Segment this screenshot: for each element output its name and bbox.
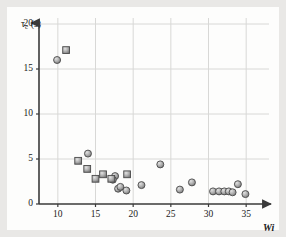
plot-canvas: τc (s) Wi 101520253035051015 bbox=[7, 7, 279, 230]
x-tick-label-35: 35 bbox=[237, 210, 255, 220]
data-point-circle-17 bbox=[242, 191, 249, 198]
data-point-square-4 bbox=[100, 171, 107, 178]
data-point-circle-0 bbox=[54, 57, 61, 64]
y-tick-label-15: 15 bbox=[15, 64, 33, 74]
data-point-circle-6 bbox=[123, 187, 130, 194]
data-point-circle-7 bbox=[138, 182, 145, 189]
y-tick-label-20: 20 bbox=[15, 19, 33, 29]
data-point-circle-8 bbox=[157, 161, 164, 168]
x-tick-label-15: 15 bbox=[87, 210, 105, 220]
data-point-square-5 bbox=[108, 175, 115, 182]
y-tick-label-5: 5 bbox=[15, 154, 33, 164]
x-tick-label-10: 10 bbox=[49, 210, 67, 220]
data-point-circle-15 bbox=[229, 189, 236, 196]
x-tick-label-20: 20 bbox=[124, 210, 142, 220]
gridlines-group bbox=[39, 18, 269, 204]
y-tick-label-10: 10 bbox=[15, 109, 33, 119]
data-point-square-0 bbox=[63, 47, 70, 54]
data-point-circle-10 bbox=[188, 179, 195, 186]
x-tick-label-25: 25 bbox=[162, 210, 180, 220]
data-point-square-1 bbox=[75, 157, 82, 164]
data-point-square-6 bbox=[124, 171, 131, 178]
data-point-circle-1 bbox=[84, 150, 91, 157]
y-tick-label-0: 0 bbox=[15, 199, 33, 209]
scatter-plot-figure: τc (s) Wi 101520253035051015 bbox=[0, 0, 286, 237]
data-point-circle-9 bbox=[176, 186, 183, 193]
data-point-square-3 bbox=[92, 175, 99, 182]
plot-svg bbox=[7, 7, 279, 230]
data-point-circle-16 bbox=[234, 181, 241, 188]
x-tick-label-30: 30 bbox=[200, 210, 218, 220]
data-point-square-2 bbox=[84, 166, 91, 173]
